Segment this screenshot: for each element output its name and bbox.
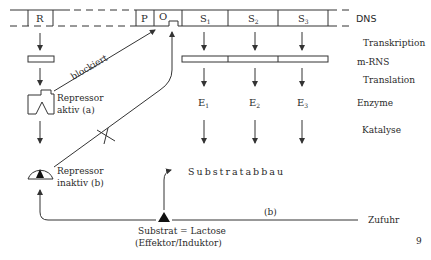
label-transkription: Transkription [363,38,425,48]
gene-s2-label: S2 [248,13,259,25]
label-translation: Translation [363,75,415,85]
substrate-line2: (Effektor/Induktor) [135,238,222,248]
mrna-bar [182,56,328,62]
label-blockiert: blockiert [69,53,110,82]
label-katalyse: Katalyse [362,125,401,135]
lac-operon-diagram: R P O S1 S2 S3 DNS Transkription m-RNS T… [0,0,431,260]
gene-promoter-label: P [141,13,148,24]
label-zufuhr: Zufuhr [368,215,400,225]
repressor-inactive-icon [28,169,53,179]
repressor-active-line2: aktiv (a) [57,105,95,115]
page-number: 9 [416,236,422,246]
label-mrns: m-RNS [357,57,389,67]
substrate-line1: Substrat = Lactose [138,226,226,236]
label-substratabbau: Substratabbau [188,166,285,177]
substrate-triangle-icon [158,212,170,222]
gene-regulator-label: R [36,13,44,24]
label-path-b: (b) [264,207,277,217]
enzyme-e3: E3 [297,97,308,109]
enzyme-e1: E1 [198,97,209,109]
gene-s1-label: S1 [200,13,211,25]
repressor-mrna [28,56,54,62]
substrate-to-repressor-arrow [40,190,156,220]
gene-s3-label: S3 [298,13,309,25]
repressor-active-line1: Repressor [57,93,104,103]
label-dns: DNS [356,13,376,24]
enzyme-e2: E2 [249,97,260,109]
substrate-degradation-arrow [164,170,171,210]
gene-operator-label: O [159,11,167,22]
repressor-inactive-line2: inaktiv (b) [57,178,104,188]
repressor-active-icon [28,90,54,114]
label-enzyme: Enzyme [357,98,393,108]
repressor-inactive-line1: Repressor [57,166,104,176]
